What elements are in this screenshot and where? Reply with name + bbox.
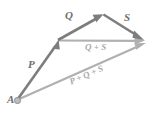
label-vector-s: S [124, 12, 130, 23]
vector-addition-figure: A P Q S Q + S P + Q + S [0, 0, 153, 115]
label-vector-q-plus-s: Q + S [85, 43, 106, 52]
origin-point-marker [14, 97, 20, 103]
label-vector-q: Q [65, 10, 73, 21]
label-origin-a: A [7, 94, 14, 105]
vector-s-arrowhead [132, 31, 144, 40]
vector-q-shaft [58, 19, 97, 41]
vector-p-plus-q-plus-s-arrowhead [135, 43, 147, 50]
vector-s-shaft [104, 15, 138, 36]
label-vector-p: P [28, 59, 35, 70]
